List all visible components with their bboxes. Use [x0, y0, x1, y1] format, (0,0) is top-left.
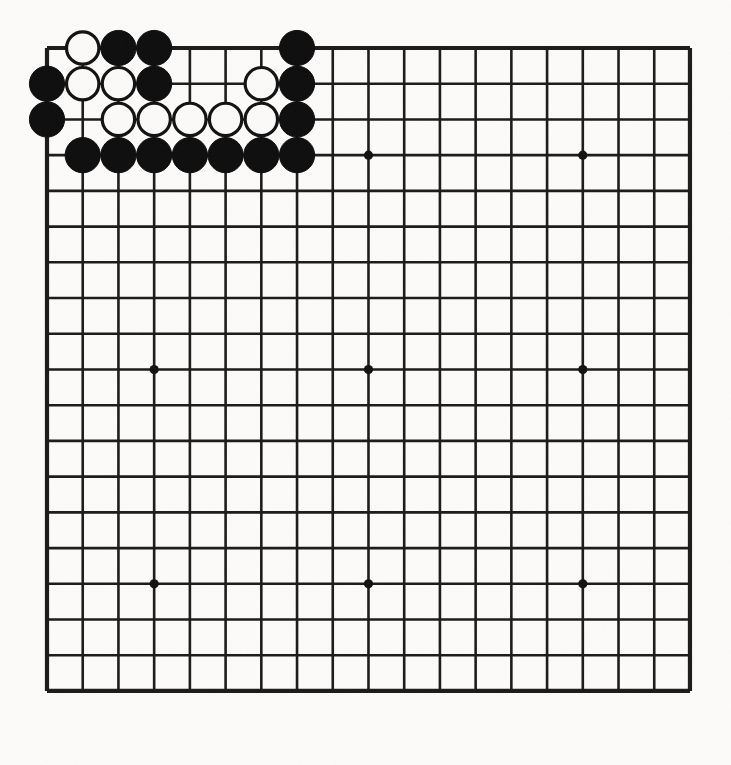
star-point-10-10	[364, 365, 373, 374]
black-stone-1-3[interactable]	[29, 102, 64, 137]
white-stone-4-3[interactable]	[138, 103, 170, 135]
black-stone-4-2[interactable]	[137, 66, 172, 101]
black-stone-3-4[interactable]	[101, 138, 136, 173]
star-point-10-16	[364, 579, 373, 588]
black-stone-6-4[interactable]	[208, 138, 243, 173]
black-stone-4-1[interactable]	[137, 30, 172, 65]
go-board[interactable]	[0, 0, 731, 765]
star-point-16-16	[578, 579, 587, 588]
white-stone-7-2[interactable]	[245, 68, 277, 100]
white-stone-5-3[interactable]	[174, 103, 206, 135]
star-point-16-4	[578, 151, 587, 160]
white-stone-2-1[interactable]	[67, 32, 99, 64]
black-stone-8-2[interactable]	[279, 66, 314, 101]
black-stone-3-1[interactable]	[101, 30, 136, 65]
white-stone-3-2[interactable]	[102, 68, 134, 100]
star-point-4-16	[150, 579, 159, 588]
black-stone-2-4[interactable]	[65, 138, 100, 173]
white-stone-6-3[interactable]	[209, 103, 241, 135]
white-stone-7-3[interactable]	[245, 103, 277, 135]
stones-group[interactable]	[29, 30, 314, 172]
page-root	[0, 0, 731, 765]
black-stone-8-3[interactable]	[279, 102, 314, 137]
star-point-4-10	[150, 365, 159, 374]
star-point-10-4	[364, 151, 373, 160]
black-stone-1-2[interactable]	[29, 66, 64, 101]
black-stone-5-4[interactable]	[172, 138, 207, 173]
star-point-16-10	[578, 365, 587, 374]
black-stone-8-1[interactable]	[279, 30, 314, 65]
black-stone-8-4[interactable]	[279, 138, 314, 173]
black-stone-4-4[interactable]	[137, 138, 172, 173]
black-stone-7-4[interactable]	[244, 138, 279, 173]
white-stone-3-3[interactable]	[102, 103, 134, 135]
white-stone-2-2[interactable]	[67, 68, 99, 100]
